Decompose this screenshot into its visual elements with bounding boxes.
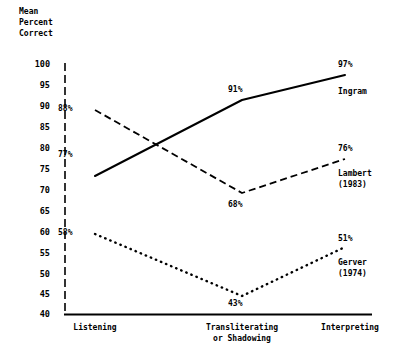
x-tick-interpreting: Interpreting xyxy=(300,322,400,333)
point-label-gerver-transliterating: 43% xyxy=(228,299,242,308)
x-tick-transliterating: Transliteratingor Shadowing xyxy=(182,322,302,344)
line-chart: MeanPercentCorrect 100 95 90 85 80 75 70… xyxy=(0,0,410,347)
point-label-gerver-listening: 58% xyxy=(58,228,72,237)
y-tick-45: 45 xyxy=(24,290,50,299)
y-tick-100: 100 xyxy=(24,60,50,69)
x-tick-listening: Listening xyxy=(55,322,135,333)
y-tick-70: 70 xyxy=(24,186,50,195)
point-label-lambert-listening: 88% xyxy=(58,104,72,113)
series-label-gerver-line-1: Gerver xyxy=(338,258,367,267)
point-label-lambert-transliterating: 68% xyxy=(228,200,242,209)
series-label-gerver-line-2: (1974) xyxy=(338,269,367,278)
point-label-ingram-interpreting: 97% xyxy=(338,60,352,69)
series-label-lambert-line-1: Lambert xyxy=(338,169,372,178)
y-tick-75: 75 xyxy=(24,165,50,174)
point-label-ingram-listening: 77% xyxy=(58,150,72,159)
series-line-gerver xyxy=(95,234,345,296)
series-label-ingram: Ingram xyxy=(338,86,367,97)
x-tick-transliterating-line-2: or Shadowing xyxy=(213,334,271,343)
point-label-ingram-transliterating: 91% xyxy=(228,85,242,94)
point-label-gerver-interpreting: 51% xyxy=(338,234,352,243)
x-tick-transliterating-line-1: Transliterating xyxy=(206,323,278,332)
y-tick-60: 60 xyxy=(24,228,50,237)
series-label-lambert: Lambert(1983) xyxy=(338,168,372,190)
series-line-ingram xyxy=(95,75,345,176)
y-tick-50: 50 xyxy=(24,270,50,279)
y-tick-85: 85 xyxy=(24,123,50,132)
series-line-lambert xyxy=(95,110,345,193)
y-tick-40: 40 xyxy=(24,310,50,319)
series-label-gerver: Gerver(1974) xyxy=(338,257,367,279)
y-tick-95: 95 xyxy=(24,81,50,90)
y-tick-80: 80 xyxy=(24,144,50,153)
series-label-lambert-line-2: (1983) xyxy=(338,180,367,189)
y-tick-65: 65 xyxy=(24,207,50,216)
point-label-lambert-interpreting: 76% xyxy=(338,144,352,153)
y-tick-90: 90 xyxy=(24,102,50,111)
y-tick-55: 55 xyxy=(24,249,50,258)
